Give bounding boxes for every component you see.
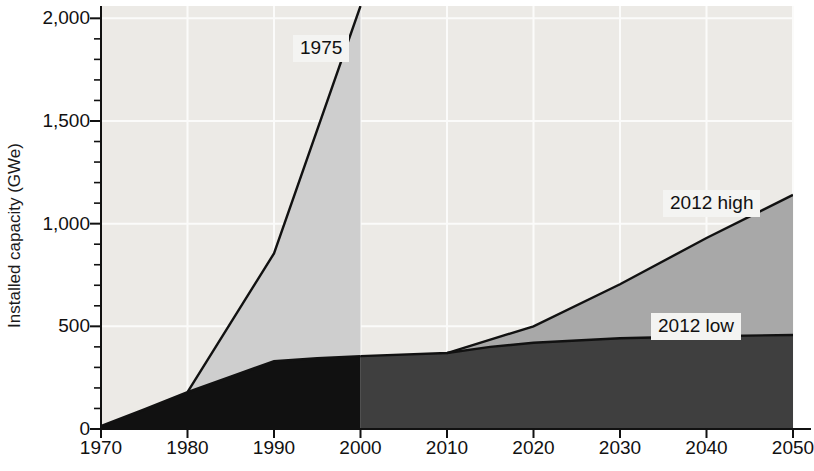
x-axis-ticks	[101, 429, 793, 438]
annotation-1975: 1975	[293, 35, 349, 62]
y-axis-ticks	[90, 18, 101, 429]
annotation-2012-high: 2012 high	[663, 190, 760, 217]
annotation-2012-low: 2012 low	[651, 313, 741, 340]
